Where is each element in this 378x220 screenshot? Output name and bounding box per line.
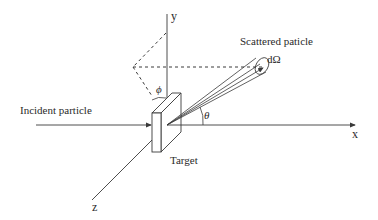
phi-label: ϕ [156, 84, 162, 95]
target-slab [152, 93, 181, 152]
z-axis-label: z [92, 201, 97, 213]
phi-arc [152, 97, 166, 100]
y-axis-label: y [171, 10, 177, 22]
x-axis-label: x [352, 128, 358, 140]
scattering-diagram: y x z Incident particle Scattered paticl… [0, 0, 378, 220]
scattered-cone [167, 55, 272, 125]
target-label: Target [170, 155, 198, 166]
theta-arc [200, 107, 203, 125]
solid-angle-label: dΩ [267, 54, 281, 65]
theta-label: θ [204, 110, 209, 121]
incident-particle-label: Incident particle [20, 105, 92, 116]
scattered-particle-label: Scattered paticle [240, 36, 313, 47]
